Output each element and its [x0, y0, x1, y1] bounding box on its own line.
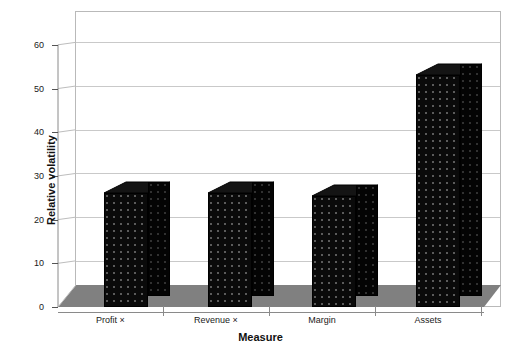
y-tick-mark-40 [52, 132, 58, 133]
x-axis-title: Measure [0, 331, 521, 343]
bar-assets[interactable] [416, 75, 460, 307]
depth-line-40 [58, 130, 76, 133]
depth-line-30 [58, 173, 76, 176]
x-axis-title-wrap: Measure [0, 331, 521, 343]
depth-line-60 [58, 42, 76, 45]
x-tick-label-assets: Assets [375, 315, 481, 325]
bar-margin-face [312, 196, 356, 307]
bar-chart: 0 10 20 30 40 50 60 Relative volatility [0, 0, 521, 355]
y-axis-title: Relative volatility [45, 135, 57, 225]
y-tick-mark-0 [52, 307, 58, 308]
bar-assets-face [416, 75, 460, 307]
x-axis-line [58, 312, 484, 313]
depth-line-50 [58, 86, 76, 89]
x-tick-label-profit: Profit × [58, 315, 163, 325]
x-tick-label-margin: Margin [269, 315, 375, 325]
depth-line-10 [58, 261, 76, 264]
bar-revenue[interactable] [208, 193, 252, 307]
bar-margin-side [356, 185, 378, 296]
bar-profit-side [148, 182, 170, 296]
y-tick-mark-60 [52, 45, 58, 46]
bar-revenue-side [252, 182, 274, 296]
bar-margin[interactable] [312, 196, 356, 307]
y-tick-label-0: 0 [0, 302, 44, 312]
x-tick-label-revenue: Revenue × [163, 315, 269, 325]
bar-profit-face [104, 193, 148, 307]
y-tick-label-60: 60 [0, 40, 44, 50]
gridline-60 [76, 42, 500, 43]
y-tick-mark-10 [52, 263, 58, 264]
depth-line-0 [58, 285, 76, 307]
y-axis-title-wrap: Relative volatility [0, 60, 22, 300]
x-tick-sep-4 [481, 306, 482, 316]
depth-line-20 [58, 217, 76, 220]
bar-revenue-face [208, 193, 252, 307]
bar-assets-side [460, 64, 482, 296]
bar-profit[interactable] [104, 193, 148, 307]
y-tick-mark-50 [52, 89, 58, 90]
